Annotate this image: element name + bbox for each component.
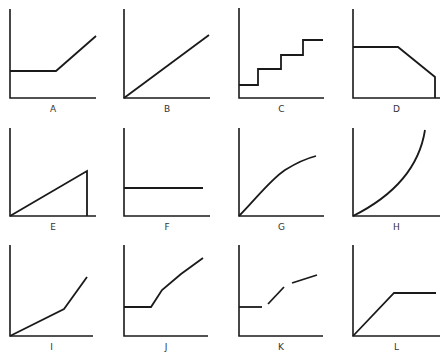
data-line	[353, 47, 435, 98]
data-line	[124, 258, 203, 307]
graph-panel-j: J	[124, 245, 208, 352]
panel-label: K	[278, 342, 285, 352]
panel-label: A	[50, 104, 57, 114]
graph-panel-d: D	[353, 9, 440, 114]
graph-panel-l: L	[353, 245, 440, 352]
panel-label: C	[278, 104, 284, 114]
panel-label: D	[393, 104, 400, 114]
axes	[124, 128, 210, 216]
axes	[10, 128, 96, 216]
graph-panel-e: E	[10, 128, 96, 232]
panel-label: F	[164, 222, 169, 232]
data-line	[353, 293, 436, 336]
data-curve	[239, 156, 316, 216]
panel-label: B	[164, 104, 170, 114]
panel-label: H	[393, 222, 400, 232]
panel-label: J	[164, 342, 168, 352]
axes	[124, 9, 210, 98]
axes	[124, 245, 208, 336]
data-line	[10, 36, 96, 71]
data-line	[10, 171, 87, 216]
graph-panel-b: B	[124, 9, 210, 114]
axes	[353, 9, 440, 98]
graph-panel-i: I	[10, 245, 93, 352]
panel-label: L	[394, 342, 399, 352]
graph-panel-c: C	[239, 8, 324, 114]
panel-label: G	[278, 222, 285, 232]
graphs-figure: ABCDEFGHIJKL	[0, 0, 444, 352]
panel-label: I	[50, 342, 53, 352]
data-line	[292, 275, 317, 283]
axes	[10, 9, 96, 98]
graph-panel-h: H	[353, 128, 440, 232]
data-line	[10, 277, 87, 336]
graph-panel-k: K	[239, 245, 323, 352]
axes	[10, 245, 93, 336]
graph-panel-g: G	[239, 128, 324, 232]
data-line	[124, 35, 209, 98]
graph-panel-a: A	[10, 9, 96, 114]
axes	[353, 128, 440, 216]
data-line	[268, 287, 284, 304]
data-line	[239, 40, 323, 85]
data-curve	[353, 130, 425, 216]
panel-label: E	[50, 222, 56, 232]
graph-panel-f: F	[124, 128, 210, 232]
